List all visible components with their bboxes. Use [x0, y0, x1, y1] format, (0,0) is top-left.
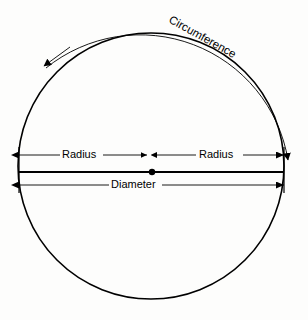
radius-left-label: Radius: [62, 148, 97, 160]
circle-diagram-figure: Circumference Radius Radius Diameter: [0, 0, 308, 320]
circle-diagram-canvas: Circumference Radius Radius Diameter: [0, 0, 308, 320]
diameter-label: Diameter: [111, 178, 156, 190]
radius-right-label: Radius: [199, 148, 234, 160]
figure-background: [0, 0, 308, 320]
center-point-dot: [149, 169, 155, 175]
